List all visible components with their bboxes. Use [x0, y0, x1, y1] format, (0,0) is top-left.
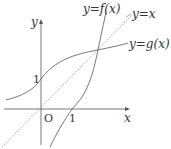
y-axis-label: y — [30, 15, 38, 29]
curve-g — [6, 43, 128, 100]
x-axis-label: x — [124, 111, 131, 125]
label-f: y=f(x) — [82, 2, 121, 16]
label-g: y=g(x) — [128, 37, 170, 51]
curve-f — [50, 12, 106, 147]
curve-identity — [2, 15, 132, 147]
y-tick-1: 1 — [33, 73, 40, 86]
y-axis-arrow-icon — [39, 19, 43, 24]
identity-label-leader — [126, 14, 131, 17]
origin-label: O — [44, 112, 53, 125]
function-graph: y=f(x) y=x y=g(x) y x O 1 1 — [0, 0, 171, 149]
x-tick-1: 1 — [69, 112, 76, 125]
label-identity: y=x — [131, 7, 156, 21]
